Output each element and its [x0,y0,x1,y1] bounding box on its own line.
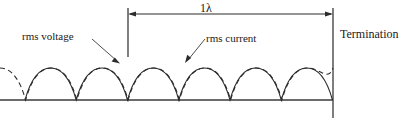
rms-current-curve [25,68,333,100]
termination-label: Termination [340,28,398,40]
rms-current-leader-group [185,39,205,63]
rms-current-leader-line [188,39,205,60]
wavelength-arrow-left-icon [128,11,136,16]
rms-current-label: rms current [206,33,256,44]
wavelength-label: 1λ [200,2,212,14]
rms-current-leader-arrow-icon [185,55,191,63]
rms-voltage-label: rms voltage [22,31,74,42]
rms-voltage-leader-arrow-icon [112,58,120,64]
standing-wave-figure: 1λ rms voltage rms current Termination [0,0,408,121]
figure-canvas [0,0,408,121]
rms-voltage-leader-line [92,39,117,61]
wavelength-arrow-right-icon [325,11,333,16]
rms-voltage-leader-group [92,39,120,64]
